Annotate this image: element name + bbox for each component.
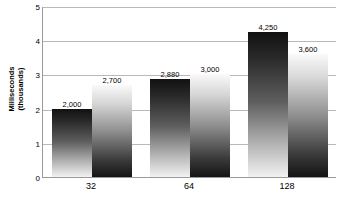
bar-value-label: 3,600 — [288, 45, 328, 54]
bar-value-label: 2,700 — [92, 76, 132, 85]
bar-value-label: 2,880 — [150, 70, 190, 79]
bar — [150, 79, 190, 177]
y-axis-title-line1: Milliseconds — [6, 66, 15, 111]
x-axis-tick-label: 128 — [238, 181, 336, 191]
bar — [92, 85, 132, 177]
y-axis-tick-label: 4 — [28, 37, 40, 46]
plot-area: 2,0002,7002,8803,0004,2503,600 — [42, 7, 336, 178]
bar-chart: Milliseconds (thousands) 012345 2,0002,7… — [0, 0, 348, 198]
y-axis-tick-label: 0 — [28, 174, 40, 183]
x-axis-tick-labels: 3264128 — [42, 181, 336, 195]
y-axis-tick-label: 5 — [28, 3, 40, 12]
bar-value-label: 4,250 — [248, 23, 288, 32]
bar-value-label: 3,000 — [190, 65, 230, 74]
y-axis-title-line2: (thousands) — [15, 68, 24, 111]
y-axis-tick-label: 2 — [28, 105, 40, 114]
bars-layer: 2,0002,7002,8803,0004,2503,600 — [43, 7, 336, 177]
x-axis-tick-label: 64 — [140, 181, 238, 191]
bar-value-label: 2,000 — [52, 100, 92, 109]
x-axis-tick-label: 32 — [42, 181, 140, 191]
bar — [190, 74, 230, 177]
bar — [248, 32, 288, 177]
y-axis-tick-label: 3 — [28, 71, 40, 80]
bar — [52, 109, 92, 177]
y-axis-tick-label: 1 — [28, 139, 40, 148]
y-axis-title: Milliseconds (thousands) — [0, 0, 30, 178]
bar — [288, 54, 328, 177]
y-axis-tick-labels: 012345 — [28, 7, 40, 178]
